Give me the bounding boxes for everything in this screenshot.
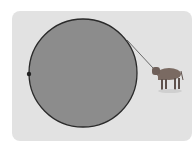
diagram-canvas	[0, 0, 196, 148]
cow-icon	[152, 67, 183, 93]
circle-field	[29, 19, 137, 127]
tether-point	[27, 72, 31, 76]
